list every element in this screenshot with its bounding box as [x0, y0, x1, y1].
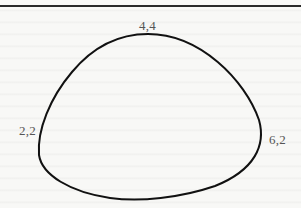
- point-label-top: 4,4: [139, 19, 156, 32]
- page-background: 4,4 2,2 6,2: [0, 0, 301, 208]
- closed-curve: [39, 34, 261, 200]
- point-label-right: 6,2: [269, 133, 286, 146]
- point-label-left: 2,2: [19, 124, 36, 137]
